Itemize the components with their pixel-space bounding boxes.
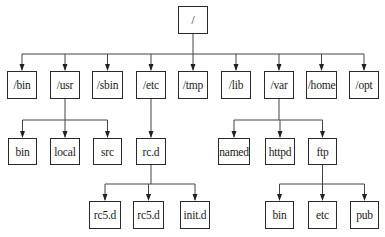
node-initd: init.d: [180, 201, 210, 229]
node-etc: /etc: [136, 71, 166, 99]
node-usr-bin: bin: [8, 138, 37, 165]
node-usr-src: src: [93, 138, 122, 165]
node-opt: /opt: [349, 71, 379, 99]
node-bin: /bin: [7, 71, 37, 99]
filesystem-tree-diagram: / /bin /usr /sbin /etc /tmp /lib /var /h…: [0, 0, 385, 237]
node-var-named: named: [218, 138, 250, 165]
node-sbin: /sbin: [92, 71, 123, 99]
node-ftp-etc: etc: [308, 201, 337, 229]
node-rc5d-2: rc5.d: [133, 201, 164, 229]
node-usr: /usr: [50, 71, 80, 99]
node-etc-rcd: rc.d: [136, 138, 166, 165]
node-rc5d-1: rc5.d: [89, 201, 121, 229]
node-usr-local: local: [50, 138, 80, 165]
node-var: /var: [264, 71, 294, 99]
node-lib: /lib: [221, 71, 251, 99]
node-home: /home: [306, 71, 337, 99]
node-ftp-pub: pub: [350, 201, 379, 229]
node-var-ftp: ftp: [308, 138, 337, 165]
node-var-httpd: httpd: [265, 138, 295, 165]
node-root: /: [178, 6, 208, 34]
node-ftp-bin: bin: [265, 201, 294, 229]
node-tmp: /tmp: [178, 71, 208, 99]
